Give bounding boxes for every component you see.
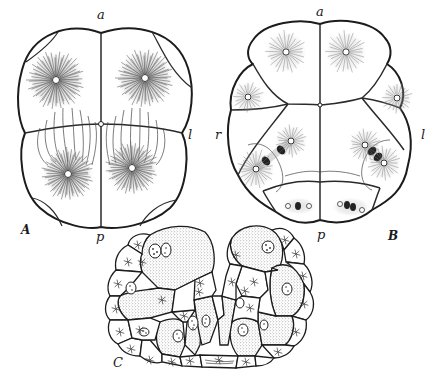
endoderm-right-low1 [230, 318, 262, 356]
label-b-posterior: p [317, 228, 325, 241]
label-b-anterior: a [316, 5, 324, 18]
label-b-right-side: r [215, 128, 221, 141]
spindle-b-middle-left [236, 124, 308, 189]
label-panel-b: B [388, 230, 398, 242]
embryo-cleavage-diagram [0, 0, 432, 379]
endoderm-left-mid [118, 288, 175, 320]
label-panel-a: A [21, 224, 30, 236]
label-b-lateral: l [421, 128, 425, 141]
label-a-anterior: a [97, 8, 105, 21]
label-a-lateral: l [188, 128, 192, 141]
spindle-b-lower-right [331, 197, 371, 217]
label-panel-c: C [113, 356, 123, 369]
label-a-posterior: p [96, 230, 104, 243]
spindle-b-lower-left [281, 197, 317, 215]
figure-c [106, 226, 314, 368]
figure-b [228, 21, 413, 223]
